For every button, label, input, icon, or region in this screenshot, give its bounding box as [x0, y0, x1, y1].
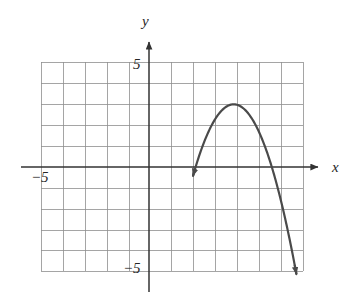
parabola-right-arrow — [295, 265, 297, 274]
x-axis-tick-negative-5: −5 — [31, 170, 49, 185]
y-axis-label: y — [142, 14, 149, 29]
graph-canvas — [0, 0, 353, 303]
y-axis-tick-5: 5 — [133, 57, 141, 72]
y-axis-tick-negative-5: −5 — [123, 261, 141, 276]
x-axis-label: x — [332, 160, 339, 175]
coordinate-plane-figure: y x 5 −5 −5 — [0, 0, 353, 303]
